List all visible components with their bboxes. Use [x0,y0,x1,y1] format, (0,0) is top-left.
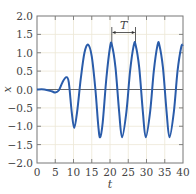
x-tick: 25 [122,166,135,178]
x-tick: 35 [158,166,171,178]
y-tick: −2.0 [8,157,34,169]
chart: 2.0 1.5 1.0 0.5 0.0 −0.5 −1.0 −1.5 −2.0 … [0,0,196,194]
x-tick: 0 [34,166,41,178]
x-tick: 10 [67,166,80,178]
x-tick: 20 [103,166,116,178]
y-tick: −1.0 [8,120,34,132]
x-tick: 30 [140,166,153,178]
y-tick: 2.0 [16,10,33,22]
y-axis-label: x [1,86,14,93]
y-tick: 0.5 [16,65,33,77]
y-tick: −0.5 [8,102,34,114]
y-tick: 1.0 [16,47,33,59]
y-tick: −1.5 [8,139,34,151]
y-tick: 0.0 [16,84,33,96]
x-axis-label: t [108,178,113,191]
x-tick: 5 [52,166,59,178]
x-tick: 15 [85,166,98,178]
x-tick: 40 [176,166,189,178]
y-tick: 1.5 [16,28,33,40]
period-label: T [120,19,129,32]
x-tick-labels: 0 5 10 15 20 25 30 35 40 [34,166,190,178]
